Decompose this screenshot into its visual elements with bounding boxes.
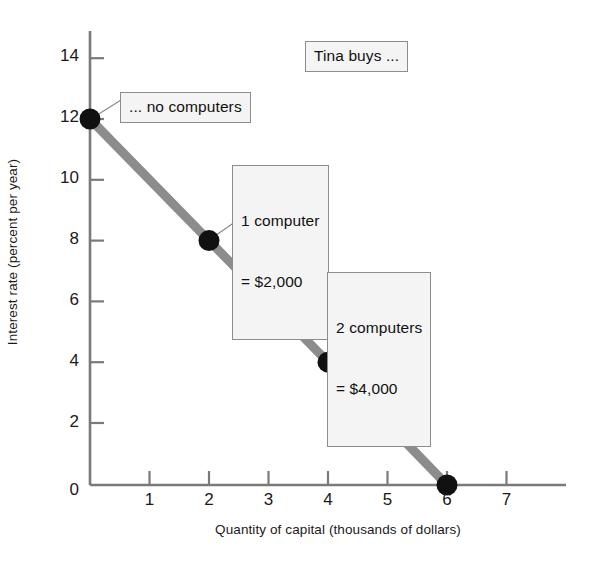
x-axis-title: Quantity of capital (thousands of dollar…	[0, 522, 590, 537]
marker-0-12	[80, 109, 101, 130]
y-tick-label-2: 2	[53, 412, 79, 432]
callout-one-computer-line2: = $2,000	[241, 272, 320, 292]
y-tick-label-10: 10	[53, 168, 79, 188]
y-tick-label-0: 0	[53, 480, 79, 500]
y-tick-label-8: 8	[53, 229, 79, 249]
callout-tina-buys: Tina buys ...	[305, 41, 408, 72]
callout-one-computer-line1: 1 computer	[241, 211, 320, 231]
callout-two-computers-line2: = $4,000	[336, 379, 422, 399]
y-axis-title-text: Interest rate (percent per year)	[5, 159, 20, 345]
x-tick-label-2: 2	[196, 490, 222, 510]
marker-2-8	[199, 230, 220, 251]
callout-no-computers: ... no computers	[120, 92, 251, 123]
x-tick-label-5: 5	[375, 490, 401, 510]
y-tick-label-12: 12	[53, 107, 79, 127]
y-tick-label-6: 6	[53, 290, 79, 310]
y-axis-title: Interest rate (percent per year)	[0, 0, 24, 569]
callout-two-computers: 2 computers = $4,000	[327, 272, 431, 447]
x-tick-label-7: 7	[494, 490, 520, 510]
capital-demand-chart: 14 12 10 8 6 4 2 0 1 2 3 4 5 6 7 Interes…	[0, 0, 590, 569]
x-tick-label-3: 3	[256, 490, 282, 510]
x-tick-label-4: 4	[315, 490, 341, 510]
y-tick-label-14: 14	[53, 46, 79, 66]
x-tick-label-1: 1	[137, 490, 163, 510]
callout-one-computer: 1 computer = $2,000	[232, 165, 329, 340]
callout-two-computers-line1: 2 computers	[336, 318, 422, 338]
y-tick-label-4: 4	[53, 351, 79, 371]
x-tick-label-6: 6	[434, 490, 460, 510]
